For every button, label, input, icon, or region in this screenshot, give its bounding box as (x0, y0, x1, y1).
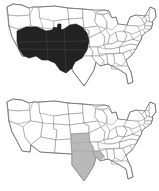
us-map-bottom-svg (0, 95, 159, 190)
map-panel-top (0, 0, 159, 95)
two-panel-us-map-figure (0, 0, 159, 191)
us-map-top-svg (0, 0, 159, 95)
map-panel-bottom (0, 95, 159, 190)
